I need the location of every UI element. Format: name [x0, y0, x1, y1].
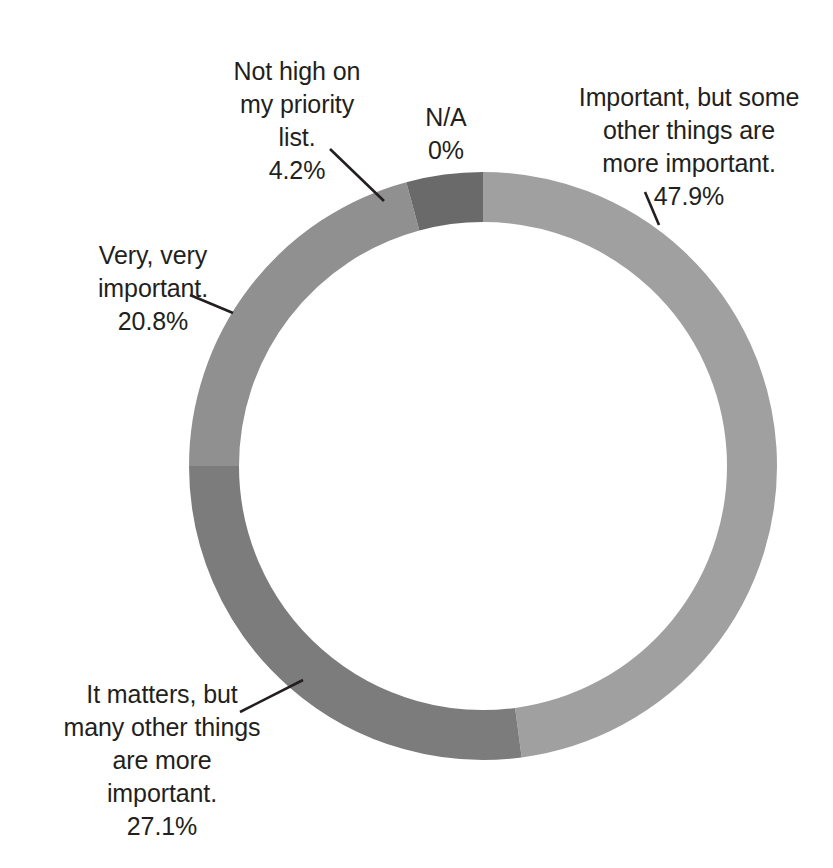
slice-label-text: N/A — [425, 103, 466, 131]
slice-label-percent: 0% — [381, 134, 511, 167]
slice-label-it-matters-but-many: It matters, but many other things are mo… — [28, 645, 296, 868]
chart-page: Not high on my priority list. 4.2% N/A 0… — [0, 0, 833, 868]
slice-label-percent: 47.9% — [546, 180, 832, 213]
slice-label-text: Important, but some other things are mor… — [579, 83, 799, 177]
slice-label-very-very-important: Very, very important. 20.8% — [43, 206, 263, 371]
slice-label-na: N/A 0% — [381, 68, 511, 200]
slice-label-percent: 27.1% — [28, 810, 296, 843]
slice-label-percent: 4.2% — [212, 154, 382, 187]
slice-label-important-but-some: Important, but some other things are mor… — [546, 48, 832, 246]
slice-label-not-high-on-priority: Not high on my priority list. 4.2% — [212, 22, 382, 220]
slice-label-text: Very, very important. — [98, 241, 208, 302]
slice-label-text: Not high on my priority list. — [234, 57, 361, 151]
slice-label-text: It matters, but many other things are mo… — [63, 680, 260, 807]
donut-slice[interactable] — [483, 197, 752, 733]
slice-label-percent: 20.8% — [43, 305, 263, 338]
